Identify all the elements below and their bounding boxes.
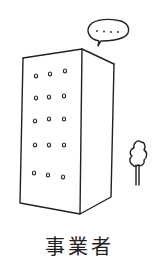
speech-dots [96, 30, 119, 33]
building-windows [32, 69, 66, 179]
building-icon [20, 49, 114, 214]
caption-label: 事業者 [0, 231, 159, 260]
speech-bubble-icon [88, 19, 128, 46]
tree-icon [130, 141, 147, 185]
